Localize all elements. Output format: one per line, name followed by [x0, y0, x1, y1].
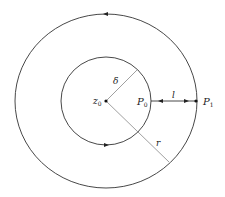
annulus-diagram: z0 δ P0 l P1 r	[0, 0, 225, 197]
label-p0: P0	[136, 96, 148, 108]
l-arrow-right-icon	[184, 99, 189, 103]
label-l: l	[172, 90, 175, 100]
point-p1	[194, 99, 197, 102]
l-arrow-left-icon	[158, 99, 163, 103]
delta-radius-line	[106, 70, 137, 101]
label-delta: δ	[113, 76, 118, 86]
label-r: r	[156, 138, 161, 148]
r-radius-line	[106, 101, 169, 162]
outer-arrow-icon	[103, 12, 108, 16]
inner-arrow-icon	[104, 143, 109, 147]
label-p1: P1	[202, 96, 214, 108]
label-z0: z0	[92, 96, 102, 107]
center-point-z0	[104, 99, 107, 102]
